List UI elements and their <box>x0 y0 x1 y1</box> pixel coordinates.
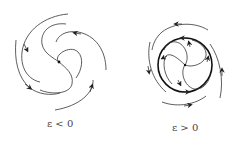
arrow-left <box>24 44 27 50</box>
trajectory-arm-1-inner <box>42 24 66 62</box>
fixed-point <box>58 61 61 64</box>
trajectory-arm-3 <box>55 80 93 110</box>
label-epsilon-negative: ε < 0 <box>47 118 73 129</box>
trajectory-arm-3-inner <box>40 62 72 93</box>
fixed-point <box>184 64 186 66</box>
inner-trajectory-1 <box>164 55 185 84</box>
limit-cycle-diagram <box>148 24 222 106</box>
inner-trajectory-4 <box>183 65 210 89</box>
arrow-outer-bottom <box>184 105 190 106</box>
phase-portrait-figure <box>0 0 236 144</box>
arrow-inner-4 <box>178 80 180 84</box>
arrow-inner-3 <box>207 58 208 62</box>
outer-trajectory-top <box>152 24 208 50</box>
trajectory-arm-1 <box>22 14 68 82</box>
arrow-outer-left <box>148 66 149 72</box>
arrow-right <box>90 86 92 92</box>
arrow-inner-2 <box>189 43 190 47</box>
arrow-top <box>75 33 81 34</box>
trajectory-arm-4 <box>16 40 60 94</box>
stable-spiral-diagram <box>16 14 106 110</box>
trajectory-arm-2 <box>56 32 106 70</box>
arrow-bottom-left <box>25 84 30 88</box>
outer-trajectory-bottom <box>162 96 206 105</box>
label-epsilon-positive: ε > 0 <box>172 122 198 133</box>
